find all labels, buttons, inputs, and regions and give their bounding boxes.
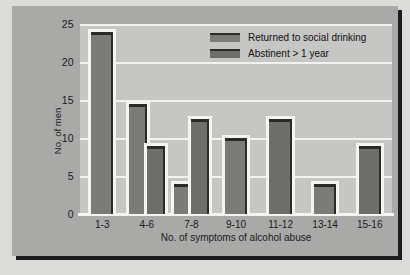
x-tick-label: 15-16 [357, 219, 383, 230]
y-tick-label: 0 [68, 208, 74, 220]
y-axis-title: No. of men [52, 108, 63, 154]
bar[interactable] [314, 184, 336, 214]
legend-swatch [210, 49, 240, 58]
chart-legend: Returned to social drinkingAbstinent > 1… [210, 32, 366, 64]
y-tick-label: 20 [62, 56, 74, 68]
legend-label: Returned to social drinking [248, 32, 366, 43]
bar[interactable] [359, 146, 381, 214]
bar-fill [191, 119, 209, 214]
bar-fill [359, 146, 381, 214]
x-tick-label: 1-3 [95, 219, 109, 230]
chart-panel: No. of men 0510152025 1-34-67-89-1011-12… [12, 6, 398, 256]
bar-fill [225, 138, 247, 214]
bar[interactable] [191, 119, 209, 214]
bar[interactable] [147, 146, 165, 214]
x-tick-label: 13-14 [312, 219, 338, 230]
y-tick-label: 25 [62, 18, 74, 30]
x-tick-label: 11-12 [268, 219, 293, 230]
x-tick-label: 9-10 [226, 219, 246, 230]
y-tick-label: 5 [68, 170, 74, 182]
bar[interactable] [225, 138, 247, 214]
legend-item[interactable]: Returned to social drinking [210, 32, 366, 43]
bar[interactable] [91, 32, 113, 214]
x-axis-title: No. of symptoms of alcohol abuse [80, 232, 392, 243]
y-tick-label: 15 [62, 94, 74, 106]
legend-swatch [210, 33, 240, 42]
bar-fill [91, 32, 113, 214]
y-tick-label: 10 [62, 132, 74, 144]
legend-item[interactable]: Abstinent > 1 year [210, 48, 366, 59]
bar[interactable] [269, 119, 291, 214]
x-tick-label: 7-8 [184, 219, 198, 230]
bar-fill [147, 146, 165, 214]
bar-fill [269, 119, 291, 214]
legend-label: Abstinent > 1 year [248, 48, 329, 59]
bar-fill [314, 184, 336, 214]
figure-root: No. of men 0510152025 1-34-67-89-1011-12… [0, 0, 410, 275]
x-tick-label: 4-6 [140, 219, 154, 230]
